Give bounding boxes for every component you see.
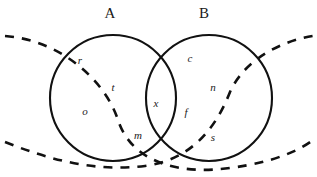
- element-label-t: t: [111, 81, 115, 93]
- element-label-f: f: [184, 106, 189, 118]
- element-label-s: s: [211, 131, 215, 143]
- element-label-n: n: [210, 81, 216, 93]
- set-circle-b[interactable]: [146, 35, 272, 161]
- set-label-a: A: [105, 5, 116, 21]
- element-label-m: m: [134, 129, 142, 141]
- venn-diagram-canvas: A B rtomxcnfs: [0, 0, 317, 177]
- set-label-b: B: [199, 5, 209, 21]
- element-label-x: x: [153, 97, 159, 109]
- venn-diagram-svg: A B rtomxcnfs: [0, 0, 317, 177]
- element-label-o: o: [82, 105, 88, 117]
- element-label-c: c: [188, 52, 193, 64]
- element-label-r: r: [78, 54, 83, 66]
